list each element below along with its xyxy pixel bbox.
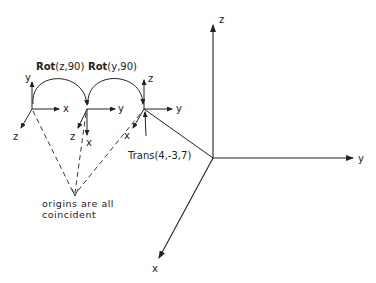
frame-2-axis-right-label: y	[118, 103, 124, 114]
note-line-2: coincident	[42, 209, 96, 220]
note-line-1: origins are all	[42, 198, 114, 209]
trans-label: Trans(4,-3,7)	[127, 150, 191, 161]
frame-2: y x z	[70, 103, 124, 148]
frame-3-axis-diag-label: x	[124, 130, 130, 141]
frame-2-axis-diag-label: z	[70, 131, 75, 142]
rot-z-label: Rot(z,90)	[36, 61, 84, 72]
rot-z-arc	[33, 79, 87, 105]
frame-3-axis-up-label: z	[148, 73, 153, 84]
rot-y-arc	[88, 79, 143, 105]
frame-3: z y x	[124, 73, 182, 141]
diagram-canvas: y x z y x z z y x Rot(z,90) Rot(y,90) Tr…	[0, 0, 376, 283]
world-frame: z y x	[152, 14, 364, 274]
rot-y-label: Rot(y,90)	[88, 61, 137, 72]
frame-1-axis-up-label: y	[25, 72, 31, 83]
frame-1-axis-right-label: x	[63, 103, 69, 114]
frame-1-axis-diag-label: z	[13, 131, 18, 142]
frame-3-axis-right-label: y	[176, 103, 182, 114]
frame-2-axis-down-label: x	[86, 137, 92, 148]
world-axis-right-label: y	[358, 153, 364, 164]
world-axis-up-label: z	[219, 14, 224, 25]
world-axis-diag-label: x	[152, 263, 158, 274]
frame-1: y x z	[13, 72, 69, 142]
